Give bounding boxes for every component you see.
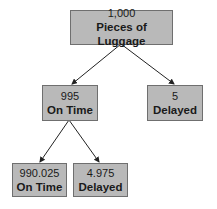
root-node: 1,000 Pieces of Luggage — [70, 10, 173, 45]
node-label: Delayed — [78, 180, 122, 194]
node-on-time-on-time: 990.025 On Time — [12, 163, 67, 197]
node-on-time-delayed: 4.975 Delayed — [73, 163, 128, 197]
arrow-root-to-ontime — [72, 44, 121, 84]
node-on-time: 995 On Time — [42, 85, 98, 121]
arrow-ontime-to-ontime — [40, 120, 69, 162]
root-value: 1,000 — [108, 7, 136, 20]
node-value: 4.975 — [87, 167, 115, 180]
node-delayed: 5 Delayed — [147, 85, 203, 121]
node-label: Delayed — [153, 103, 197, 117]
node-value: 5 — [172, 90, 178, 103]
root-label: Pieces of Luggage — [71, 20, 172, 48]
node-value: 995 — [61, 90, 79, 103]
arrow-root-to-delayed — [121, 44, 174, 84]
arrow-ontime-to-delayed — [69, 120, 99, 162]
node-label: On Time — [17, 180, 63, 194]
node-label: On Time — [47, 103, 93, 117]
node-value: 990.025 — [20, 167, 60, 180]
